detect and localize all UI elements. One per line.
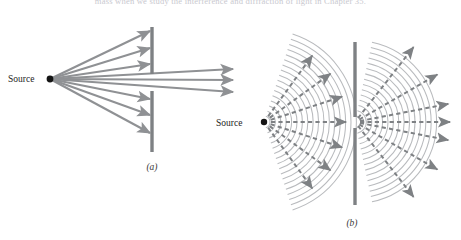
diffraction-figure: mass when we study the interference and … <box>0 0 461 240</box>
panel-b-incident-wavefront-11 <box>284 60 329 184</box>
panel-b-source-dot <box>261 119 267 125</box>
panel-a-source-point <box>47 76 54 83</box>
panel-a-source-dot <box>47 76 54 83</box>
panel-a-ray-through-1 <box>50 79 233 80</box>
panel-a-source-label: Source <box>8 74 34 84</box>
panel-b-source-label: Source <box>216 118 242 128</box>
panel-b-source-point <box>261 119 267 125</box>
panel-a-ray-blocked-5 <box>50 79 150 133</box>
panel-a-caption: (a) <box>146 162 157 173</box>
panel-b-caption: (b) <box>346 218 357 229</box>
panel-b: Source (b) <box>216 34 450 229</box>
figure-canvas: Source (a) Source (b) <box>0 0 461 240</box>
panel-a: Source (a) <box>8 27 233 173</box>
